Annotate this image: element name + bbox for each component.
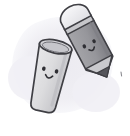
doodle-svg [0, 0, 130, 136]
edge-speck [121, 72, 122, 76]
illustration-canvas: Kawaii cup and pencil doodle Hand-drawn … [0, 0, 130, 136]
